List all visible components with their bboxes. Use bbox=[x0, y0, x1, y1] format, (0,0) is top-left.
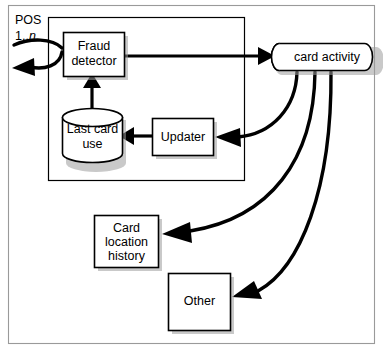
last-card-use-label-line1: Last card bbox=[67, 122, 118, 136]
fraud-detector-label-line2: detector bbox=[71, 54, 116, 68]
other-label: Other bbox=[184, 294, 215, 308]
last-card-use-label-line2: use bbox=[82, 137, 102, 151]
arrowhead-fraud-to-pos bbox=[12, 58, 35, 76]
edge-pos-to-fraud-detector bbox=[14, 40, 62, 48]
edge-card-activity-to-other bbox=[258, 72, 331, 291]
node-fraud-detector[interactable]: Fraud detector bbox=[64, 33, 125, 77]
arrowhead-to-updater bbox=[215, 128, 241, 147]
fraud-detector-label-line1: Fraud bbox=[78, 39, 111, 53]
node-updater[interactable]: Updater bbox=[153, 119, 214, 156]
card-activity-label: card activity bbox=[294, 50, 361, 64]
node-last-card-use[interactable]: Last card use bbox=[63, 109, 123, 163]
updater-label: Updater bbox=[161, 130, 205, 144]
card-location-history-label-line2: location bbox=[105, 235, 148, 249]
edge-fraud-detector-to-pos bbox=[30, 52, 62, 68]
node-card-location-history[interactable]: Card location history bbox=[95, 216, 159, 268]
pos-group-label: POS bbox=[15, 13, 41, 27]
card-location-history-label-line1: Card bbox=[113, 221, 140, 235]
card-location-history-label-line3: history bbox=[108, 249, 146, 263]
node-other[interactable]: Other bbox=[169, 274, 231, 331]
node-card-activity[interactable]: card activity bbox=[272, 44, 373, 71]
architecture-diagram: POS 1..n bbox=[0, 0, 383, 355]
arrowhead-to-card-location-history bbox=[162, 222, 192, 243]
card-activity-cylinder-cap bbox=[272, 44, 280, 71]
edge-card-activity-to-updater bbox=[238, 72, 297, 137]
arrowhead-to-other bbox=[232, 281, 262, 299]
diagram-canvas: POS 1..n bbox=[0, 0, 383, 355]
